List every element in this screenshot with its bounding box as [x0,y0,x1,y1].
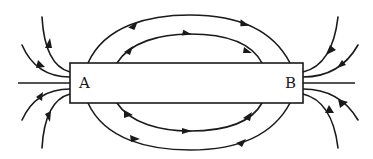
field-line-inner-bottom [117,103,262,134]
pole-label-a: A [79,76,90,91]
arrow-icon [236,139,246,147]
arrow-icon [325,105,334,113]
arrow-icon [36,60,45,68]
field-line-outer-top [88,15,290,63]
field-lines-right [303,17,358,148]
arrow-icon [182,30,192,37]
magnetic-field-diagram [0,0,373,159]
field-line-outer-bottom [88,103,290,150]
bar-magnet [70,63,303,103]
field-lines-left [18,17,70,148]
arrow-icon [182,128,192,134]
field-line-inner-top [117,30,262,63]
arrow-icon [239,19,250,28]
arrow-icon [326,45,336,55]
arrow-icon [338,99,348,108]
arrow-icon [130,135,140,142]
pole-label-b: B [285,76,296,91]
